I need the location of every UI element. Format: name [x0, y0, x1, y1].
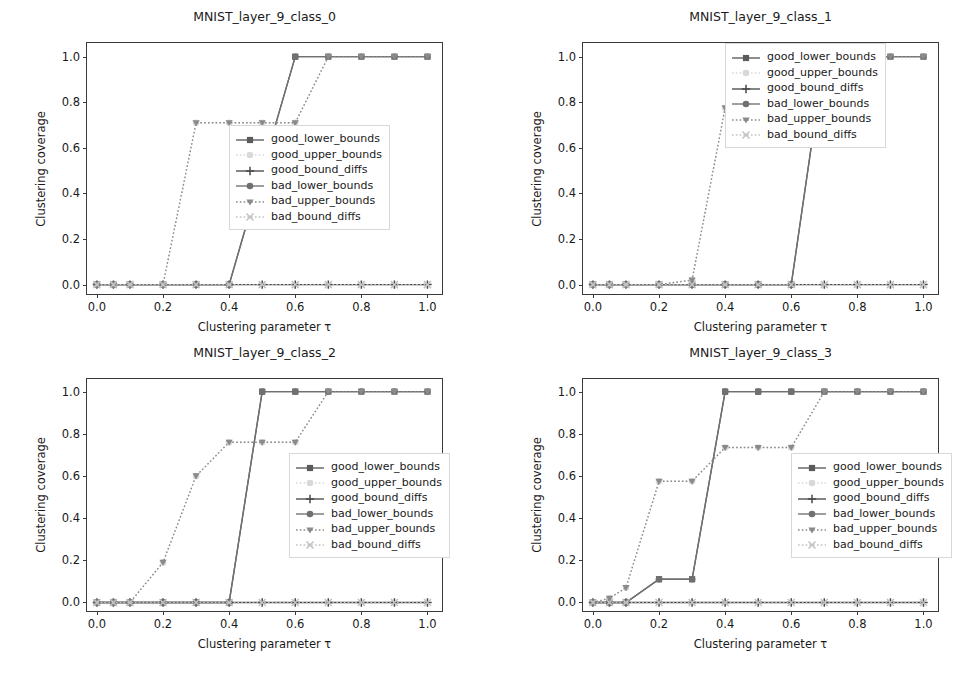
legend-key-good-bound-diffs — [797, 491, 827, 505]
y-axis-label: Clustering coverage — [530, 437, 544, 553]
legend-label: bad_bound_diffs — [833, 539, 923, 550]
legend: good_lower_bounds good_upper_bounds good… — [791, 453, 952, 558]
legend-label: good_upper_bounds — [833, 477, 944, 488]
figure-canvas: MNIST_layer_9_class_00.00.20.40.60.81.00… — [0, 0, 979, 687]
legend-key-bad-upper-bounds — [797, 522, 827, 536]
legend-item-good-upper-bounds[interactable]: good_upper_bounds — [797, 475, 944, 491]
legend-label: good_bound_diffs — [833, 492, 929, 503]
x-tick-label: 0.8 — [848, 617, 866, 631]
legend-key-good-upper-bounds — [797, 475, 827, 489]
legend-label: bad_upper_bounds — [833, 523, 937, 534]
x-tick-label: 0.2 — [650, 617, 668, 631]
legend-item-bad-lower-bounds[interactable]: bad_lower_bounds — [797, 506, 944, 522]
legend-label: bad_lower_bounds — [833, 508, 935, 519]
x-tick-label: 0.6 — [782, 617, 800, 631]
x-tick-label: 1.0 — [914, 617, 932, 631]
legend-key-bad-lower-bounds — [797, 506, 827, 520]
legend-label: good_lower_bounds — [833, 461, 942, 472]
legend-item-bad-upper-bounds[interactable]: bad_upper_bounds — [797, 521, 944, 537]
y-tick-label: 0.2 — [558, 553, 576, 567]
y-tick-label: 1.0 — [558, 385, 576, 399]
subplot-title: MNIST_layer_9_class_3 — [582, 345, 939, 360]
y-tick-label: 0.0 — [558, 595, 576, 609]
subplot-3: MNIST_layer_9_class_30.00.20.40.60.81.00… — [0, 0, 979, 687]
legend-item-good-lower-bounds[interactable]: good_lower_bounds — [797, 459, 944, 475]
x-tick-label: 0.4 — [716, 617, 734, 631]
x-tick-label: 0.0 — [584, 617, 602, 631]
legend-key-good-lower-bounds — [797, 460, 827, 474]
x-axis-label: Clustering parameter τ — [582, 637, 939, 651]
legend-item-good-bound-diffs[interactable]: good_bound_diffs — [797, 490, 944, 506]
legend-item-bad-bound-diffs[interactable]: bad_bound_diffs — [797, 537, 944, 553]
y-tick-label: 0.4 — [558, 511, 576, 525]
plot-area: 0.00.20.40.60.81.00.00.20.40.60.81.0 goo… — [582, 378, 939, 612]
y-tick-label: 0.6 — [558, 469, 576, 483]
y-tick-label: 0.8 — [558, 427, 576, 441]
legend-key-bad-bound-diffs — [797, 537, 827, 551]
